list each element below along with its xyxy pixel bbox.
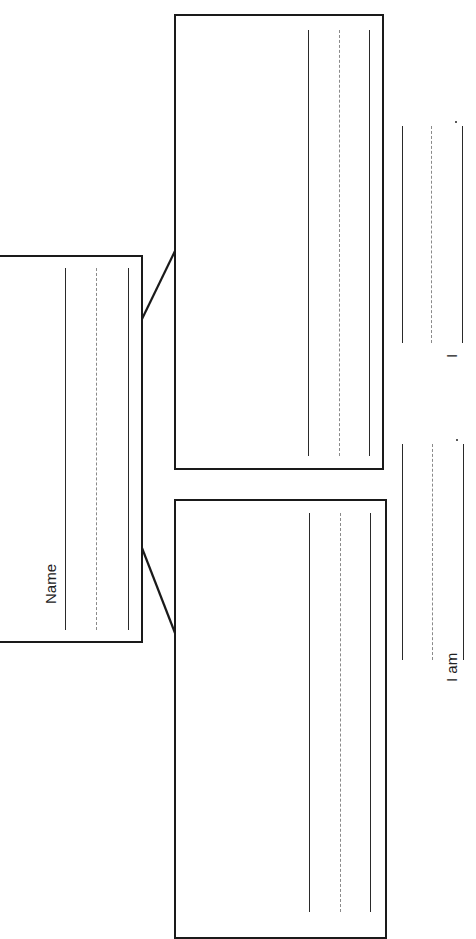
sentence-1-midline: [432, 444, 433, 660]
upper-detail-box: [174, 14, 384, 470]
name-writing-midline: [96, 268, 97, 630]
name-writing-line-top[interactable]: [128, 268, 129, 630]
sentence-2-line-top[interactable]: [462, 126, 463, 343]
sentence-1-line-top[interactable]: [463, 444, 464, 660]
lower-detail-box: [174, 499, 387, 939]
center-name-box: [0, 255, 143, 643]
sentence-2-period: [455, 121, 457, 123]
lower-writing-line-bottom[interactable]: [309, 513, 310, 912]
sentence-2-start-text: I: [443, 354, 460, 358]
upper-writing-midline: [339, 30, 340, 456]
sentence-2-line-bottom[interactable]: [402, 126, 403, 343]
sentence-1-line-bottom[interactable]: [402, 444, 403, 660]
lower-connector: [142, 548, 175, 633]
name-writing-line-bottom[interactable]: [65, 268, 66, 630]
upper-connector: [142, 251, 175, 319]
upper-writing-line-top[interactable]: [369, 30, 370, 456]
sentence-1-start-text: I am: [443, 653, 460, 682]
sentence-1-period: [456, 439, 458, 441]
sentence-2-midline: [431, 126, 432, 343]
lower-writing-midline: [340, 513, 341, 912]
name-label: Name: [42, 564, 59, 604]
lower-writing-line-top[interactable]: [370, 513, 371, 912]
upper-writing-line-bottom[interactable]: [308, 30, 309, 456]
